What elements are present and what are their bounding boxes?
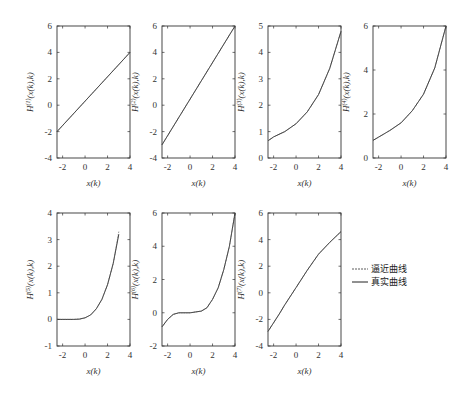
x-tick-label: 0	[294, 162, 299, 172]
y-tick-label: 0	[48, 100, 53, 110]
subplot-3: -2024012345x(k)H(3)(x(k),k)	[236, 21, 344, 188]
x-axis-label: x(k)	[191, 178, 206, 188]
axes-frame	[268, 213, 341, 346]
y-tick-label: -4	[150, 153, 158, 163]
x-tick-label: 0	[188, 350, 193, 360]
y-tick-label: -4	[256, 341, 264, 351]
x-tick-label: -2	[164, 350, 172, 360]
y-tick-label: -2	[45, 127, 53, 137]
x-tick-label: 0	[399, 162, 404, 172]
x-tick-label: 2	[105, 350, 110, 360]
y-tick-label: -4	[45, 153, 53, 163]
x-tick-label: 2	[421, 162, 426, 172]
y-tick-label: 5	[259, 21, 264, 31]
x-tick-label: -2	[270, 350, 278, 360]
x-tick-label: 4	[444, 162, 449, 172]
x-axis-label: x(k)	[297, 178, 312, 188]
approx-curve	[373, 26, 446, 140]
y-tick-label: 2	[259, 261, 264, 271]
y-tick-label: 4	[153, 241, 158, 251]
axes-frame	[162, 26, 235, 158]
legend-label-approx: 逼近曲线	[371, 262, 407, 275]
subplot-4: -20240246x(k)H(4)(x(k),k)	[341, 21, 449, 188]
legend: 逼近曲线 真实曲线	[352, 262, 407, 288]
x-tick-label: -2	[375, 162, 383, 172]
y-tick-label: 1	[48, 288, 53, 298]
x-tick-label: -2	[164, 162, 172, 172]
y-tick-label: 2	[48, 74, 53, 84]
x-axis-label: x(k)	[191, 366, 206, 376]
true-curve	[373, 26, 446, 140]
y-tick-label: 2	[153, 74, 158, 84]
x-tick-label: 4	[339, 350, 344, 360]
y-tick-label: 0	[48, 314, 53, 324]
y-tick-label: 6	[259, 208, 264, 218]
y-tick-label: 4	[364, 65, 369, 75]
y-tick-label: 4	[48, 47, 53, 57]
y-tick-label: 0	[259, 288, 264, 298]
true-curve	[268, 232, 341, 332]
x-tick-label: 4	[339, 162, 344, 172]
y-tick-label: 6	[153, 208, 158, 218]
x-axis-label: x(k)	[86, 366, 101, 376]
x-tick-label: 0	[83, 162, 88, 172]
figure: -2024-4-20246x(k)H(1)(x(k),k)-2024-4-202…	[0, 0, 471, 400]
y-axis-label: H(7)(x(k),k)	[236, 260, 246, 301]
subplot-1: -2024-4-20246x(k)H(1)(x(k),k)	[25, 21, 133, 188]
x-tick-label: -2	[59, 350, 67, 360]
y-tick-label: -2	[150, 127, 158, 137]
y-axis-label: H(3)(x(k),k)	[236, 72, 246, 113]
y-axis-label: H(6)(x(k),k)	[130, 260, 140, 301]
y-tick-label: 0	[153, 308, 158, 318]
x-tick-label: 0	[188, 162, 193, 172]
x-axis-label: x(k)	[86, 178, 101, 188]
y-axis-label: H(2)(x(k),k)	[130, 72, 140, 113]
y-tick-label: -2	[150, 341, 158, 351]
axes-frame	[162, 213, 235, 346]
y-tick-label: 4	[153, 47, 158, 57]
y-tick-label: 6	[364, 21, 369, 31]
axes-frame	[373, 26, 446, 158]
y-tick-label: -2	[256, 314, 264, 324]
true-curve	[162, 213, 235, 327]
x-tick-label: 2	[316, 350, 321, 360]
x-tick-label: 2	[210, 350, 215, 360]
x-tick-label: -2	[59, 162, 67, 172]
subplot-5: -2024-101234x(k)H(5)(x(k),k)	[25, 208, 133, 376]
y-axis-label: H(4)(x(k),k)	[341, 72, 351, 113]
x-tick-label: 2	[316, 162, 321, 172]
x-tick-label: -2	[270, 162, 278, 172]
axes-frame	[268, 26, 341, 158]
y-tick-label: 2	[259, 100, 264, 110]
legend-label-true: 真实曲线	[371, 275, 407, 288]
x-tick-label: 0	[294, 350, 299, 360]
y-tick-label: 4	[259, 47, 264, 57]
y-tick-label: 0	[153, 100, 158, 110]
dashed-line-icon	[352, 267, 368, 271]
x-tick-label: 2	[105, 162, 110, 172]
x-tick-label: 0	[83, 350, 88, 360]
subplot-2: -2024-4-20246x(k)H(2)(x(k),k)	[130, 21, 238, 188]
y-tick-label: 4	[259, 235, 264, 245]
y-tick-label: 3	[259, 74, 264, 84]
subplot-6: -2024-20246x(k)H(6)(x(k),k)	[130, 208, 238, 376]
y-tick-label: -1	[45, 341, 53, 351]
x-tick-label: 4	[128, 350, 133, 360]
legend-item-approx: 逼近曲线	[352, 262, 407, 275]
y-axis-label: H(1)(x(k),k)	[25, 72, 35, 113]
y-tick-label: 6	[153, 21, 158, 31]
x-tick-label: 2	[210, 162, 215, 172]
x-axis-label: x(k)	[402, 178, 417, 188]
subplot-7: -2024-4-20246x(k)H(7)(x(k),k)	[236, 208, 344, 376]
solid-line-icon	[352, 280, 368, 284]
y-tick-label: 0	[259, 153, 264, 163]
y-tick-label: 6	[48, 21, 53, 31]
y-tick-label: 0	[364, 153, 369, 163]
x-tick-label: 4	[128, 162, 133, 172]
approx-curve	[268, 232, 341, 332]
axes-frame	[57, 213, 130, 346]
x-axis-label: x(k)	[297, 366, 312, 376]
x-tick-label: 4	[233, 350, 238, 360]
y-tick-label: 3	[48, 235, 53, 245]
x-tick-label: 4	[233, 162, 238, 172]
